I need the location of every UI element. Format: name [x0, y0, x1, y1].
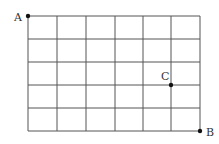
point-b-dot	[198, 129, 202, 133]
point-a-label: A	[13, 11, 23, 24]
point-c-dot	[169, 83, 173, 87]
point-a-dot	[26, 14, 30, 18]
point-b-label: B	[206, 126, 214, 139]
grid-points: ACB	[13, 11, 214, 139]
grid-lines	[28, 16, 200, 131]
grid-diagram: ACB	[0, 0, 219, 144]
point-c-label: C	[161, 70, 169, 83]
